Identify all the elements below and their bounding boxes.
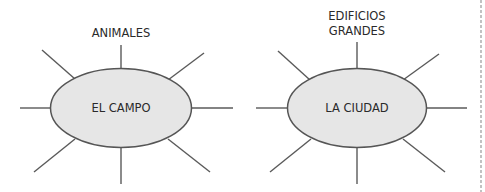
spoke-lower-left	[270, 139, 311, 172]
spoke-upper-right	[403, 54, 439, 80]
spoke-label-top-line1: EDIFICIOS	[328, 9, 385, 23]
word-web-canvas: EL CAMPO ANIMALES LA CIUDAD EDIFICIOS GR…	[0, 0, 485, 192]
spoke-lower-left	[34, 139, 75, 172]
spoke-label-top-line2: GRANDES	[329, 24, 385, 38]
spoke-label-top: ANIMALES	[92, 26, 151, 40]
word-web-el-campo: EL CAMPO ANIMALES	[20, 26, 233, 184]
spoke-lower-right	[403, 139, 445, 172]
spoke-upper-left	[278, 51, 310, 80]
center-label: EL CAMPO	[91, 101, 150, 115]
spoke-upper-left	[42, 50, 75, 79]
word-web-la-ciudad: LA CIUDAD EDIFICIOS GRANDES	[256, 9, 467, 184]
spoke-lower-right	[168, 139, 210, 172]
center-label: LA CIUDAD	[325, 101, 389, 115]
spoke-upper-right	[168, 53, 204, 80]
